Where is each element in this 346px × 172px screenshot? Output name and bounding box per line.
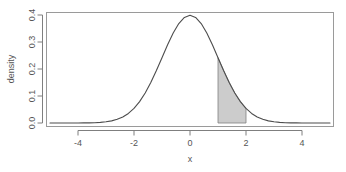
figure-background [0,0,346,172]
x-tick-label: 4 [299,138,304,148]
x-tick-label: 0 [187,138,192,148]
x-tick-label: -4 [74,138,82,148]
y-tick-label: 0.4 [27,9,37,22]
y-tick-label: 0.0 [27,117,37,130]
y-tick-label: 0.1 [27,90,37,103]
y-tick-label: 0.2 [27,63,37,76]
x-axis-title: x [188,154,193,164]
y-tick-label: 0.3 [27,36,37,49]
density-plot-figure: -4-2024 0.00.10.20.30.4 x density [0,0,346,172]
x-tick-label: 2 [243,138,248,148]
y-axis-title: density [6,54,16,83]
x-tick-label: -2 [130,138,138,148]
